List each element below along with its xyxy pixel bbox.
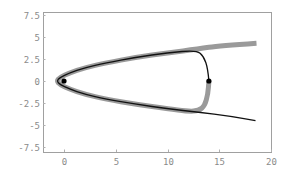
y-tick-label: 2.5	[24, 55, 40, 65]
y-tick-label: 0	[35, 77, 40, 87]
x-tick-label: 10	[163, 157, 174, 167]
turn-point-marker	[206, 78, 211, 83]
x-axis-tick-labels: 05101520	[62, 157, 277, 167]
y-axis-tick-labels: 7.552.50-2.5-5-7.5	[18, 11, 40, 153]
x-tick-label: 20	[266, 157, 277, 167]
y-tick-label: 5	[35, 33, 40, 43]
start-point-marker	[61, 78, 66, 83]
y-tick-label: -5	[29, 121, 40, 131]
y-tick-label: -2.5	[18, 99, 40, 109]
axis-ticks	[43, 16, 272, 153]
y-tick-label: 7.5	[24, 11, 40, 21]
data-series	[58, 43, 257, 120]
black-thin-trajectory	[58, 51, 256, 120]
data-markers	[61, 78, 211, 83]
plot-frame	[44, 13, 272, 153]
y-tick-label: -7.5	[18, 143, 40, 153]
x-tick-label: 5	[114, 157, 119, 167]
x-tick-label: 15	[214, 157, 225, 167]
x-tick-label: 0	[62, 157, 67, 167]
gray-thick-trajectory	[58, 43, 257, 111]
plot-area: 05101520 7.552.50-2.5-5-7.5	[0, 0, 291, 174]
